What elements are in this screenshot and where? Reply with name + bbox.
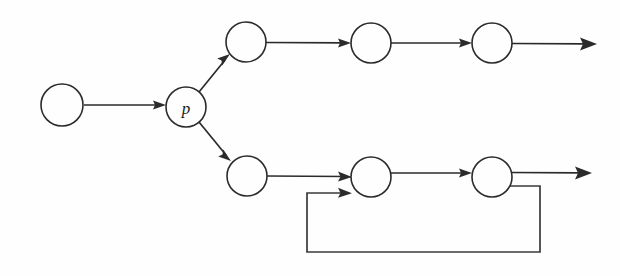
edge-start-to-p — [84, 101, 166, 110]
node-p-label: p — [181, 99, 191, 118]
arrowhead — [217, 54, 230, 65]
node-circle[interactable] — [226, 22, 266, 62]
edge-upper-2-to-3 — [391, 39, 472, 48]
diagram-svg: p — [0, 0, 620, 276]
node-lower-3[interactable] — [472, 157, 512, 197]
edge-lower-3-to-exit — [511, 167, 592, 180]
edge-lower-1-to-2 — [267, 172, 352, 182]
node-circle[interactable] — [351, 23, 391, 63]
node-circle[interactable] — [351, 157, 391, 197]
diagram-canvas: p — [0, 0, 620, 276]
node-start[interactable] — [41, 84, 83, 126]
node-circle[interactable] — [472, 157, 512, 197]
edge-lower-2-to-3 — [391, 169, 472, 178]
edge-feedback-loop — [307, 186, 540, 252]
node-circle[interactable] — [472, 23, 512, 63]
edge-upper-3-to-exit — [512, 38, 597, 51]
edge-p-to-upper-1 — [199, 54, 230, 92]
node-lower-1[interactable] — [227, 156, 267, 196]
node-circle[interactable] — [227, 156, 267, 196]
node-upper-3[interactable] — [472, 23, 512, 63]
node-lower-2[interactable] — [351, 157, 391, 197]
arrowhead — [218, 150, 231, 161]
node-upper-2[interactable] — [351, 23, 391, 63]
edge-p-to-lower-1 — [199, 122, 231, 161]
node-upper-1[interactable] — [226, 22, 266, 62]
node-p[interactable]: p — [166, 87, 206, 127]
node-circle[interactable] — [41, 84, 83, 126]
edge-upper-1-to-2 — [266, 39, 351, 48]
